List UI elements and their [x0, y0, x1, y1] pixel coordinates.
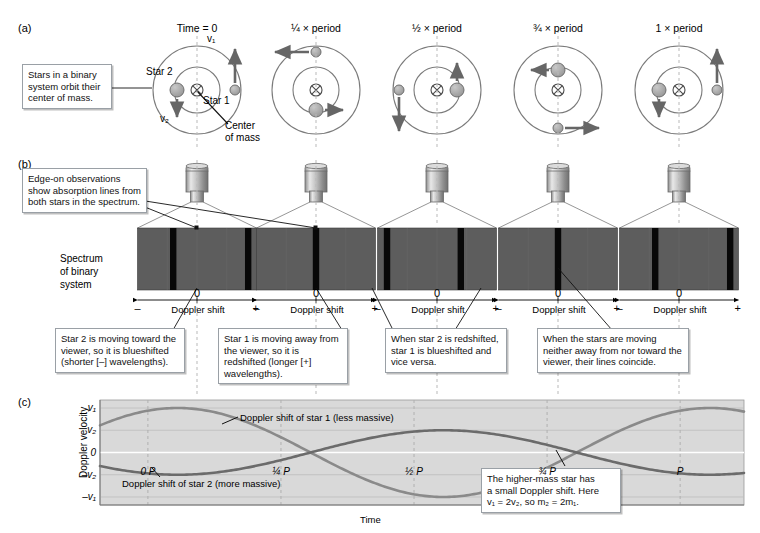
doppler-shift-axis-label: Doppler shift	[529, 304, 589, 315]
light-cone-left	[378, 202, 432, 228]
callout-orbit-note: Stars in a binary system orbit their cen…	[22, 64, 112, 109]
doppler-shift-axis-label: Doppler shift	[168, 304, 228, 315]
light-cone-right	[564, 202, 618, 228]
doppler-shift-axis-label: Doppler shift	[408, 304, 468, 315]
light-cone-right	[443, 202, 497, 228]
doppler-shift-axis-label: Doppler shift	[287, 304, 347, 315]
absorption-line	[384, 228, 390, 290]
chart-ytick-4: –v₁	[76, 491, 96, 502]
callout-star2-blueshift: Star 2 is moving toward the viewer, so i…	[55, 328, 185, 373]
time-label-half: ½ × period	[387, 22, 487, 34]
doppler-minus-sign: –	[496, 302, 502, 314]
chart-ylabel: Doppler velocity	[78, 407, 89, 478]
doppler-velocity-chart	[100, 400, 744, 505]
light-cone-left	[499, 202, 553, 228]
spectra-panels	[138, 163, 739, 303]
v1-label: v₁	[207, 33, 215, 44]
spectrum-title-line2: of binary	[60, 266, 98, 278]
light-cone-right	[203, 202, 257, 228]
time-label-0: Time = 0	[147, 22, 247, 34]
doppler-zero-label: 0	[434, 287, 440, 299]
doppler-zero-label: 0	[313, 287, 319, 299]
star-1	[712, 85, 722, 95]
absorption-line	[313, 228, 319, 290]
light-cone-left	[620, 202, 674, 228]
time-label-one-period: 1 × period	[629, 22, 729, 34]
doppler-zero-label: 0	[676, 287, 682, 299]
doppler-shift-axis-label: Doppler shift	[650, 304, 710, 315]
doppler-minus-sign: –	[254, 302, 260, 314]
star2-label: Star 2	[146, 66, 173, 78]
time-label-three-quarter: ¾ × period	[508, 22, 608, 34]
chart-xtick-0: 0 P	[126, 466, 170, 477]
center-of-mass-label-1: Center	[225, 120, 255, 132]
mass-note-line3: v₁ = 2v₂, so m₂ = 2m₁.	[487, 496, 579, 507]
doppler-plus-sign: +	[735, 302, 741, 314]
doppler-zero-label: 0	[194, 287, 200, 299]
chart-xlabel: Time	[360, 514, 381, 525]
star-1	[230, 85, 240, 95]
spectrum-title-line1: Spectrum	[60, 253, 103, 265]
figure-graphics	[0, 0, 760, 533]
light-cone-right	[322, 202, 376, 228]
time-label-quarter: ¼ × period	[266, 22, 366, 34]
star1-label: Star 1	[203, 95, 230, 107]
v2-label: v₂	[160, 113, 169, 124]
absorption-line	[727, 228, 733, 290]
light-cone-left	[257, 202, 311, 228]
curve-label-star2: Doppler shift of star 2 (more massive)	[122, 478, 280, 489]
doppler-minus-sign: –	[135, 302, 141, 314]
mass-note-line2: a small Doppler shift. Here	[487, 485, 599, 496]
chart-xtick-4: P	[658, 466, 702, 477]
doppler-minus-sign: –	[375, 302, 381, 314]
doppler-zero-label: 0	[555, 287, 561, 299]
doppler-minus-sign: –	[617, 302, 623, 314]
chart-xtick-2: ½ P	[392, 466, 436, 477]
absorption-line	[170, 228, 176, 290]
chart-xtick-1: ¼ P	[259, 466, 303, 477]
binary-star-doppler-figure: (a) (b) (c)	[0, 0, 760, 533]
absorption-line	[652, 228, 658, 290]
curve-label-star1: Doppler shift of star 1 (less massive)	[240, 412, 394, 423]
absorption-line	[245, 228, 251, 290]
light-cone-right	[685, 202, 739, 228]
callout-lines-coincide: When the stars are moving neither away f…	[537, 328, 689, 373]
callout-line-swap: When star 2 is redshifted, star 1 is blu…	[385, 328, 507, 373]
star-1	[394, 85, 404, 95]
star-2	[170, 83, 184, 97]
center-of-mass-label-2: of mass	[225, 132, 260, 144]
star-2	[450, 83, 464, 97]
absorption-line	[555, 228, 561, 290]
absorption-line	[458, 228, 464, 290]
callout-edge-on: Edge-on observations show absorption lin…	[22, 168, 147, 213]
callout-star1-redshift: Star 1 is moving away from the viewer, s…	[218, 328, 348, 384]
spectrum-title-line3: system	[60, 279, 92, 291]
star-2	[652, 83, 666, 97]
chart-xtick-3: ¾ P	[525, 466, 569, 477]
